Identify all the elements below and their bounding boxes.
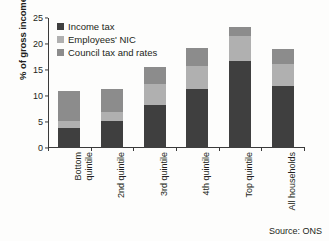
y-tick-mark <box>45 95 49 96</box>
bar-segment <box>144 67 166 84</box>
bar-3[interactable] <box>144 67 166 148</box>
legend-label: Council tax and rates <box>68 47 157 58</box>
bar-segment <box>58 91 80 121</box>
legend-item-1[interactable]: Income tax <box>57 20 157 33</box>
bar-segment <box>101 121 123 148</box>
bar-segment <box>229 61 251 148</box>
legend-swatch-icon <box>57 36 64 43</box>
x-tick-mark <box>48 147 49 151</box>
bar-segment <box>58 121 80 128</box>
y-axis-title: % of gross income <box>17 0 28 103</box>
legend-label: Income tax <box>68 21 114 32</box>
legend-swatch-icon <box>57 49 64 56</box>
chart-legend: Income taxEmployees' NICCouncil tax and … <box>57 20 157 59</box>
bar-segment <box>272 64 294 86</box>
x-tick-mark <box>219 147 220 151</box>
x-tick-label: All households <box>287 152 298 211</box>
y-tick-label: 10 <box>33 91 43 101</box>
bar-6[interactable] <box>272 49 294 148</box>
bar-segment <box>186 89 208 148</box>
source-note: Source: ONS <box>269 226 322 236</box>
y-tick-label: 20 <box>33 39 43 49</box>
x-tick-mark <box>261 147 262 151</box>
x-tick-label: 2nd quintile <box>116 152 127 198</box>
y-tick-label: 0 <box>38 143 43 153</box>
bar-segment <box>101 112 123 121</box>
x-tick-mark <box>176 147 177 151</box>
y-axis-line <box>48 18 49 148</box>
x-tick-label: Bottom quintile <box>73 152 94 181</box>
y-tick-mark <box>45 17 49 18</box>
y-tick-label: 5 <box>38 117 43 127</box>
bar-2[interactable] <box>101 89 123 148</box>
bar-segment <box>229 36 251 61</box>
bar-segment <box>229 27 251 35</box>
x-tick-label: 4th quintile <box>201 152 212 196</box>
bar-segment <box>144 105 166 148</box>
legend-swatch-icon <box>57 23 64 30</box>
x-tick-label: Top quintile <box>244 152 255 198</box>
bar-segment <box>272 49 294 64</box>
bar-segment <box>58 128 80 148</box>
bar-4[interactable] <box>186 48 208 148</box>
x-tick-mark <box>91 147 92 151</box>
stacked-bar-chart: % of gross income 0510152025 Bottom quin… <box>0 0 329 241</box>
bar-segment <box>186 48 208 67</box>
bar-segment <box>186 66 208 89</box>
bar-1[interactable] <box>58 91 80 148</box>
bar-segment <box>144 84 166 105</box>
x-tick-mark <box>304 147 305 151</box>
y-tick-label: 15 <box>33 65 43 75</box>
legend-item-3[interactable]: Council tax and rates <box>57 46 157 59</box>
bar-segment <box>272 86 294 148</box>
y-tick-mark <box>45 121 49 122</box>
y-tick-mark <box>45 69 49 70</box>
legend-label: Employees' NIC <box>68 34 136 45</box>
legend-item-2[interactable]: Employees' NIC <box>57 33 157 46</box>
x-tick-label: 3rd quintile <box>159 152 170 196</box>
y-tick-label: 25 <box>33 13 43 23</box>
x-tick-mark <box>133 147 134 151</box>
bar-segment <box>101 89 123 112</box>
bar-5[interactable] <box>229 27 251 148</box>
y-tick-mark <box>45 43 49 44</box>
